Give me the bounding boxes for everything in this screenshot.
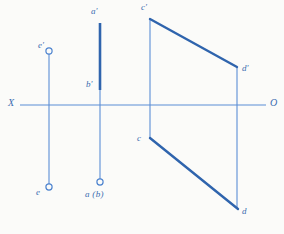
label-e-bottom: e	[36, 188, 40, 197]
label-c-prime: c'	[141, 3, 147, 12]
label-d-bottom: d	[242, 207, 247, 216]
axis-label-x: X	[8, 98, 14, 108]
projection-diagram	[0, 0, 284, 234]
label-a-prime: a'	[91, 7, 97, 16]
label-c-bottom: c	[137, 134, 141, 143]
label-b-prime: b'	[86, 80, 92, 89]
label-a-b-bottom: a (b)	[85, 190, 104, 199]
point-marker-e-prime	[46, 48, 52, 54]
point-marker-a-b	[97, 179, 103, 185]
segment-c-d	[150, 138, 238, 209]
figure-canvas: X O a' b' a (b) e' e c' d' c d	[0, 0, 284, 234]
axis-label-o: O	[270, 98, 277, 108]
segment-c-prime-d-prime	[150, 19, 237, 67]
label-d-prime: d'	[242, 64, 248, 73]
point-marker-e	[46, 184, 52, 190]
label-e-prime: e'	[38, 41, 44, 50]
